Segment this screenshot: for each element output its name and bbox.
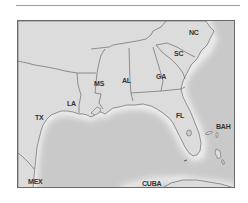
label-tx: TX xyxy=(35,114,44,121)
map-frame: NC SC GA AL MS LA TX FL BAH MEX CUBA xyxy=(17,20,235,188)
label-bah: BAH xyxy=(216,123,231,130)
label-mex: MEX xyxy=(28,178,43,185)
label-fl: FL xyxy=(176,112,184,119)
lake-okeechobee xyxy=(187,130,192,136)
label-nc: NC xyxy=(189,29,199,36)
label-ms: MS xyxy=(94,80,104,87)
label-ga: GA xyxy=(156,73,166,80)
label-al: AL xyxy=(122,77,131,84)
label-sc: SC xyxy=(174,50,183,57)
label-la: LA xyxy=(67,100,76,107)
top-rule xyxy=(16,5,240,6)
map-svg xyxy=(18,21,235,188)
label-cuba: CUBA xyxy=(142,180,161,187)
